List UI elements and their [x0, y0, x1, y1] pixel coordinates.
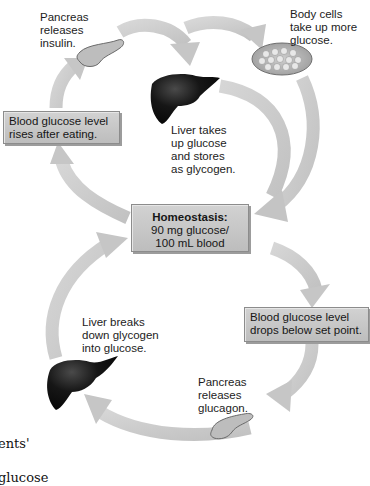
label-pancreas-insulin: Pancreas releases insulin. — [40, 11, 89, 50]
cells-icon — [252, 43, 312, 75]
rise-box-line1: Blood glucose level — [9, 115, 114, 128]
label-liver-stores: Liver takes up glucose and stores as gly… — [171, 124, 236, 176]
cut-off-body-text: ents' glucose — [0, 418, 48, 486]
homeostasis-box: Homeostasis: 90 mg glucose/ 100 mL blood — [131, 204, 249, 252]
liver-icon — [151, 74, 220, 124]
drop-box-line2: drops below set point. — [250, 324, 363, 337]
rise-after-eating-box: Blood glucose level rises after eating. — [3, 111, 120, 144]
cut-off-line1: ents' — [0, 436, 30, 451]
homeostasis-title: Homeostasis: — [137, 211, 243, 224]
cut-off-line2: glucose — [0, 470, 48, 485]
label-pancreas-glucagon: Pancreas releases glucagon. — [198, 376, 248, 415]
arrow-homeostasis-to-rise — [50, 142, 128, 218]
drops-below-set-point-box: Blood glucose level drops below set poin… — [244, 307, 369, 342]
rise-box-line2: rises after eating. — [9, 128, 114, 141]
homeostasis-line2: 90 mg glucose/ — [137, 224, 243, 237]
arrow-drop-to-pancreas — [266, 344, 312, 412]
homeostasis-line3: 100 mL blood — [137, 237, 243, 250]
arrow-homeostasis-to-drop — [272, 248, 330, 308]
drop-box-line1: Blood glucose level — [250, 311, 363, 324]
label-liver-breaks: Liver breaks down glycogen into glucose. — [82, 316, 159, 355]
label-body-cells: Body cells take up more glucose. — [290, 8, 357, 47]
